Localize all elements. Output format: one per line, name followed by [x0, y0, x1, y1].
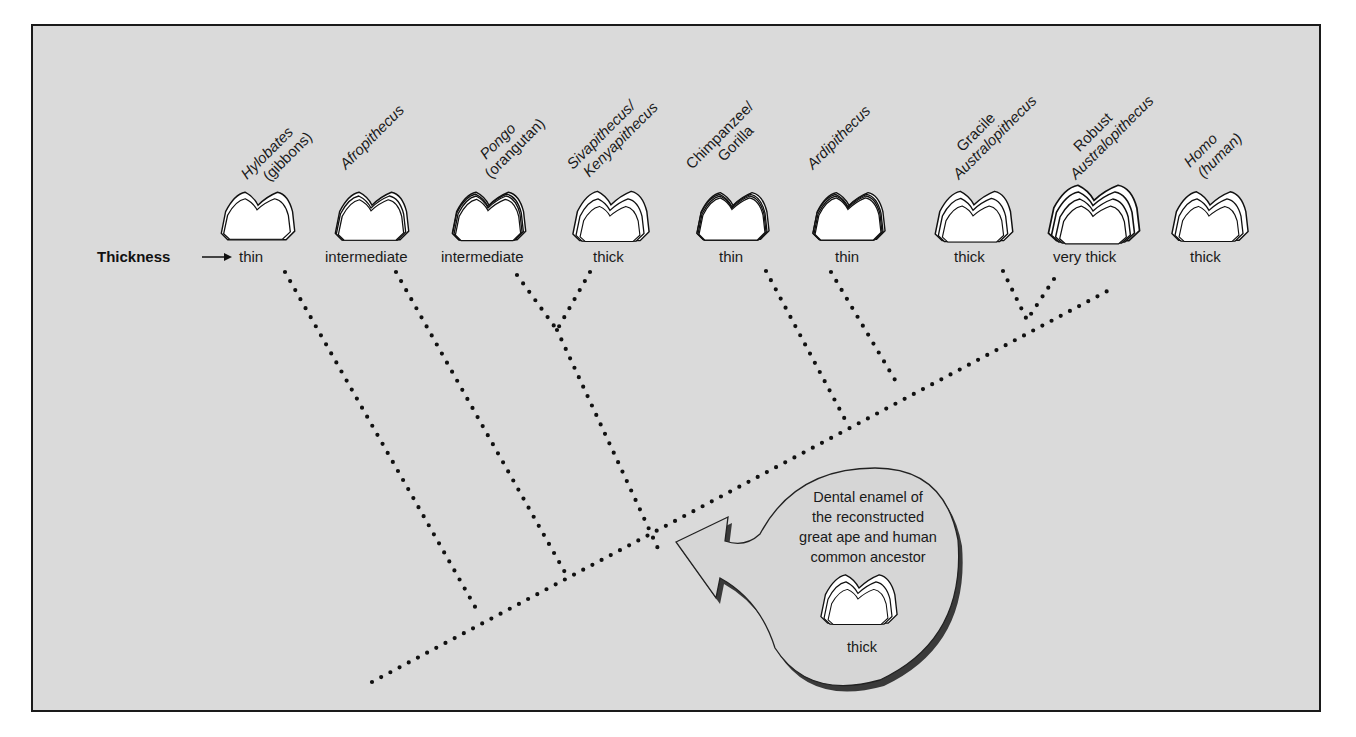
svg-text:the reconstructed: the reconstructed	[812, 509, 924, 525]
taxon-label-sivapithecus: Sivapithecus/ Kenyapithecus	[563, 86, 661, 184]
ancestor-callout: Dental enamel of the reconstructed great…	[676, 468, 963, 692]
taxon-label-pongo: Pongo (orangutan)	[469, 102, 548, 181]
taxon-label-ardipithecus: Ardipithecus	[802, 101, 873, 172]
svg-text:very thick: very thick	[1053, 248, 1117, 265]
phylogenetic-tree	[285, 271, 1115, 682]
branch-sivapithecus	[557, 272, 590, 330]
tooth-icon-homo	[1172, 192, 1248, 242]
svg-text:Dental enamel of: Dental enamel of	[813, 489, 924, 505]
taxon-label-homo: Homo (human)	[1180, 117, 1245, 182]
right-arrow-icon	[202, 253, 232, 261]
tooth-icon-robust-australopithecus	[1048, 185, 1139, 244]
svg-text:Thickness: Thickness	[97, 248, 170, 265]
trunk-line	[372, 287, 1115, 682]
thickness-values: thin intermediate intermediate thick thi…	[239, 248, 1221, 265]
tooth-icon-afropithecus	[335, 192, 408, 240]
tooth-icon-chimpanzee-gorilla	[697, 193, 769, 240]
taxon-labels: Hylobates (gibbons) Afropithecus Pongo (…	[237, 79, 1245, 194]
taxon-label-gracile-australopithecus: Gracile Australopithecus	[936, 79, 1040, 183]
svg-text:thick: thick	[593, 248, 624, 265]
branch-pongo	[517, 275, 557, 330]
svg-text:thick: thick	[847, 639, 878, 655]
svg-text:intermediate: intermediate	[441, 248, 524, 265]
svg-text:thin: thin	[239, 248, 263, 265]
tooth-icon-pongo	[452, 192, 525, 240]
svg-text:intermediate: intermediate	[325, 248, 408, 265]
branch-pongo-siva-stem	[557, 330, 661, 555]
phylogeny-diagram: Thickness Hylobates (gibbons) Afropithec…	[0, 0, 1356, 737]
taxon-label-afropithecus: Afropithecus	[335, 101, 407, 173]
svg-text:great ape and human: great ape and human	[799, 529, 937, 545]
branch-robust	[1027, 279, 1054, 320]
svg-text:Afropithecus: Afropithecus	[335, 101, 407, 173]
thickness-row-label: Thickness	[97, 248, 232, 265]
branch-ardipithecus	[831, 272, 898, 385]
enamel-teeth	[221, 185, 1248, 244]
branch-hylobates	[285, 272, 478, 612]
tooth-icon-hylobates	[221, 192, 294, 240]
svg-text:thin: thin	[835, 248, 859, 265]
taxon-label-robust-australopithecus: Robust Australopithecus	[1053, 79, 1157, 183]
svg-text:thin: thin	[719, 248, 743, 265]
svg-text:Ardipithecus: Ardipithecus	[802, 101, 873, 172]
tooth-icon-ardipithecus	[813, 193, 885, 240]
svg-text:thick: thick	[954, 248, 985, 265]
taxon-label-hylobates: Hylobates (gibbons)	[237, 116, 315, 194]
branch-gracile	[1003, 271, 1027, 320]
branch-chimpanzee-gorilla	[766, 271, 848, 425]
taxon-label-chimpanzee-gorilla: Chimpanzee/ Gorilla	[682, 97, 769, 184]
svg-text:common ancestor: common ancestor	[810, 549, 925, 565]
tooth-icon-gracile-australopithecus	[935, 191, 1013, 242]
tooth-icon-sivapithecus	[573, 191, 649, 241]
branch-afropithecus	[396, 272, 567, 576]
svg-text:thick: thick	[1190, 248, 1221, 265]
